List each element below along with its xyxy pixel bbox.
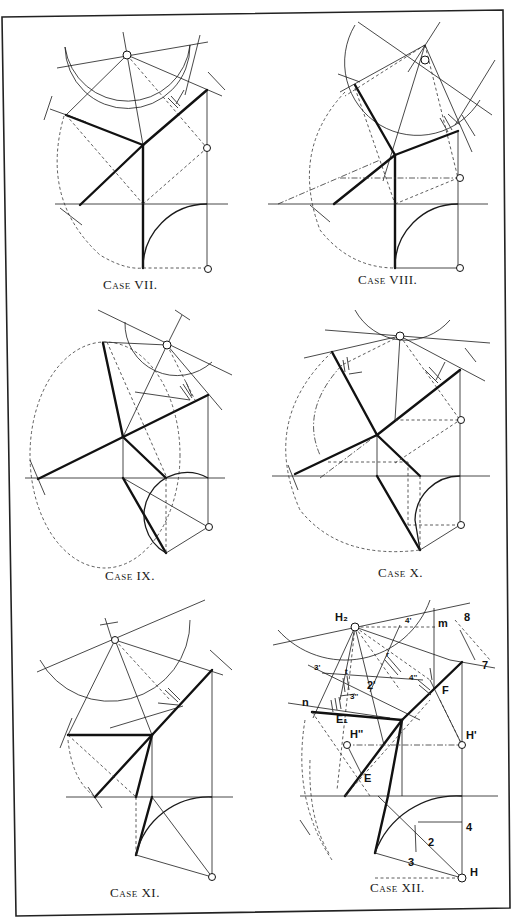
label-4-prime: 4': [405, 617, 411, 625]
label-8: 8: [464, 612, 470, 623]
label-m: m: [438, 618, 448, 629]
label-2-prime: 2': [367, 680, 376, 691]
label-h-prime: H': [466, 730, 477, 741]
caption-case-8: Case VIII.: [358, 272, 417, 288]
caption-case-7: Case VII.: [103, 277, 158, 293]
diagram-case-12: [273, 600, 498, 882]
label-3-dbl: 3'': [350, 693, 358, 701]
drawing-plate: [0, 0, 518, 919]
label-2: 2: [428, 837, 434, 848]
caption-case-12: Case XII.: [370, 880, 425, 896]
label-h2: H₂: [335, 612, 348, 623]
diagram-case-10: [272, 310, 490, 552]
diagram-case-7: [44, 32, 228, 273]
diagram-case-8: [268, 22, 495, 272]
label-e1: E₁: [336, 714, 348, 725]
caption-case-11: Case XI.: [110, 885, 160, 901]
label-4: 4: [466, 822, 472, 833]
label-e: E: [364, 773, 371, 784]
label-h: H: [470, 867, 478, 878]
label-h-dbl-prime: H'': [350, 729, 363, 740]
diagram-case-11: [37, 600, 233, 881]
label-t: t: [345, 668, 348, 676]
label-3-prime: 3': [314, 664, 320, 672]
caption-case-9: Case IX.: [105, 568, 155, 584]
label-7: 7: [482, 660, 488, 671]
label-4-dbl: 4'': [409, 674, 417, 682]
diagram-case-9: [25, 310, 232, 568]
caption-case-10: Case X.: [378, 565, 423, 581]
label-3: 3: [408, 857, 414, 868]
label-f: F: [442, 685, 449, 696]
label-r: r: [386, 651, 389, 659]
label-n: n: [302, 697, 309, 708]
plate-frame: [2, 10, 510, 916]
